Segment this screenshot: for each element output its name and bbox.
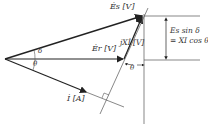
jxi-extension: [100, 8, 148, 114]
theta-label-left: θ: [33, 60, 37, 68]
equation-line-2: = XI cos θ: [170, 36, 208, 46]
er-label: Ėr [V]: [92, 44, 116, 53]
theta-label-right: θ: [130, 64, 134, 72]
delta-arc: [34, 50, 35, 59]
phasor-diagram: [0, 0, 208, 128]
jxi-label: jXİ [V]: [120, 38, 144, 47]
i-label: İ [A]: [67, 94, 85, 103]
delta-label: δ: [38, 47, 42, 55]
i-vector: [5, 59, 86, 92]
i-extension: [86, 92, 124, 107]
es-label: Ės [V]: [110, 2, 135, 11]
equation-line-1: Es sin δ: [170, 26, 200, 36]
